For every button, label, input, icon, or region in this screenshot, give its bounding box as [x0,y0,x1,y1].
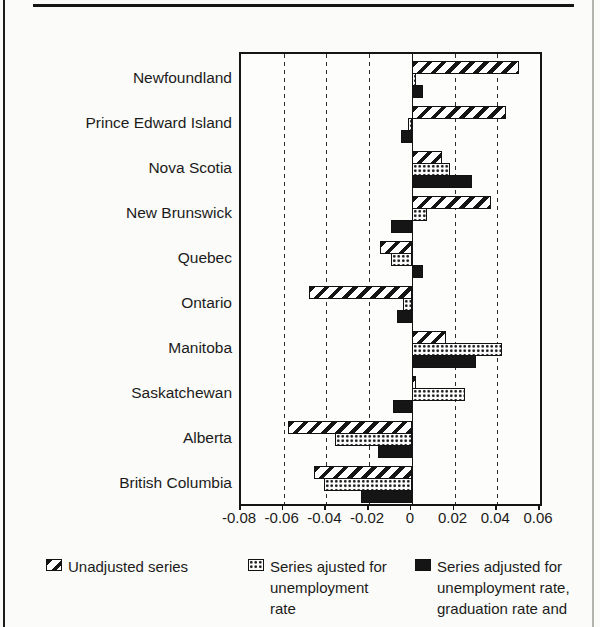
bar-ontario [397,310,412,323]
y-axis-label: Ontario [181,294,232,312]
y-axis-label: Prince Edward Island [86,114,232,132]
gridline [326,54,327,504]
bar-new-brunswick [391,220,412,233]
bar-alberta [378,445,412,458]
top-divider-rule [33,4,574,7]
y-axis-label: New Brunswick [126,204,232,222]
bar-prince-edward-island [401,130,412,143]
bar-newfoundland [412,85,423,98]
legend-item-unemployment-adjusted: Series ajusted for unemployment rate [248,556,392,619]
legend-item-fully-adjusted: Series adjusted for unemployment rate, g… [415,556,589,619]
legend-label: Series adjusted for unemployment rate, g… [437,556,589,619]
y-axis-label: British Columbia [119,474,232,492]
legend-label: Series ajusted for unemployment rate [270,556,392,619]
page-left-border-rule [3,0,5,627]
bar-saskatchewan [412,388,465,401]
gridline [497,54,498,504]
bar-manitoba [412,355,476,368]
dots-swatch-icon [248,559,264,571]
gridline [284,54,285,504]
bar-new-brunswick [412,208,427,221]
bar-nova-scotia [412,175,472,188]
bar-quebec [412,265,423,278]
bar-quebec [391,253,412,266]
y-axis-label: Newfoundland [133,69,232,87]
bar-chart-plot-area [239,52,542,506]
bar-prince-edward-island [412,106,506,119]
y-axis-label: Alberta [183,429,232,447]
y-axis-label: Manitoba [168,339,232,357]
bar-saskatchewan [393,400,412,413]
zero-line [412,54,413,504]
bar-newfoundland [412,61,519,74]
solid-swatch-icon [415,559,431,571]
y-axis-label: Nova Scotia [148,159,232,177]
y-axis-label: Saskatchewan [131,384,232,402]
gridline [455,54,456,504]
page-right-border-rule [592,0,594,627]
y-axis-label: Quebec [178,249,232,267]
x-axis-label: 0.06 [508,509,568,526]
legend-label: Unadjusted series [68,556,188,577]
bar-british-columbia [361,490,412,503]
legend-item-unadjusted: Unadjusted series [46,556,188,577]
bar-ontario [309,286,412,299]
hatch-swatch-icon [46,559,62,571]
